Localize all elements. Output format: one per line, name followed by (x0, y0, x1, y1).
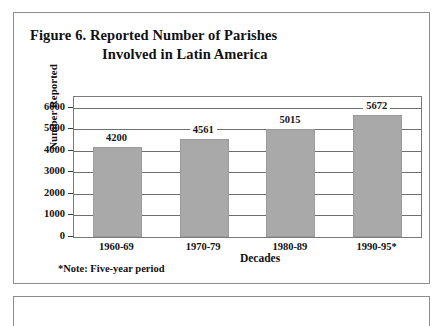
y-tick-label: 2000 (15, 187, 65, 198)
next-figure-frame (13, 296, 430, 326)
y-tick-mark (68, 107, 73, 108)
bar-value-label: 5672 (347, 100, 407, 111)
figure-title-line-2: Involved in Latin America (30, 45, 410, 64)
figure-frame: Figure 6. Reported Number of Parishes In… (13, 12, 430, 284)
y-tick-mark (68, 150, 73, 151)
bar (353, 115, 402, 237)
y-tick-mark (68, 171, 73, 172)
bar (180, 139, 229, 237)
y-tick-label: 6000 (15, 101, 65, 112)
x-axis-title: Decades (210, 252, 310, 264)
y-tick-mark (68, 193, 73, 194)
figure-title-line-1: Figure 6. Reported Number of Parishes (30, 27, 277, 43)
x-tick-label: 1960-69 (76, 241, 156, 252)
x-tick-label: 1990-95* (337, 241, 417, 252)
bar-value-label: 5015 (260, 114, 320, 125)
chart-plot-area (73, 96, 422, 238)
bar (266, 129, 315, 237)
x-tick-label: 1970-79 (163, 241, 243, 252)
y-tick-label: 5000 (15, 122, 65, 133)
y-tick-mark (68, 214, 73, 215)
y-tick-label: 0 (15, 230, 65, 241)
bar-value-label: 4200 (86, 132, 146, 143)
bar-value-label: 4561 (173, 124, 233, 135)
x-tick-label: 1980-89 (250, 241, 330, 252)
y-tick-label: 4000 (15, 144, 65, 155)
y-tick-label: 3000 (15, 165, 65, 176)
y-tick-mark (68, 236, 73, 237)
y-tick-label: 1000 (15, 208, 65, 219)
y-tick-mark (68, 128, 73, 129)
figure-footnote: *Note: Five-year period (58, 263, 165, 274)
figure-title: Figure 6. Reported Number of Parishes In… (30, 26, 410, 64)
bar (93, 147, 142, 237)
